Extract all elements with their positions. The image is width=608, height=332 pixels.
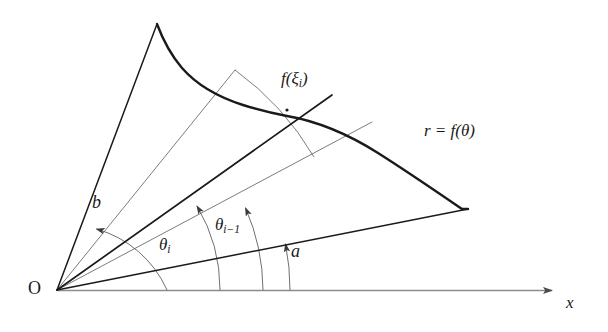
diagram-canvas bbox=[0, 0, 608, 332]
ray-theta-i-minus-1 bbox=[57, 122, 372, 290]
curve-r-equals-f-theta bbox=[157, 24, 468, 209]
angle-arc-theta-i-minus-1 bbox=[246, 208, 264, 290]
point-f-xi-i bbox=[285, 108, 288, 111]
sample-point-prefix: f(ξ bbox=[281, 69, 299, 88]
sample-point-label: f(ξi) bbox=[281, 70, 308, 90]
sample-point-suffix: ) bbox=[302, 69, 308, 88]
angle-arcs bbox=[97, 206, 291, 290]
theta-i-minus-1-label: θi−1 bbox=[215, 216, 240, 236]
angle-b-label: b bbox=[92, 193, 101, 211]
curve-equation-lhs: r = f(θ) bbox=[424, 121, 475, 140]
angle-arc-a bbox=[286, 244, 291, 290]
polar-sector-diagram: O x a b θi θi−1 f(ξi) r = f(θ) bbox=[0, 0, 608, 332]
ray-theta-i bbox=[57, 70, 235, 290]
curve-equation-label: r = f(θ) bbox=[424, 122, 475, 139]
theta-i-subscript: i bbox=[167, 243, 170, 256]
polar-curve bbox=[157, 24, 468, 209]
bounding-rays bbox=[57, 24, 468, 290]
angle-a-label: a bbox=[291, 242, 300, 260]
sample-point-marker bbox=[285, 108, 288, 111]
origin-label: O bbox=[28, 279, 41, 297]
x-axis-label: x bbox=[566, 294, 574, 311]
ray-theta-equals-b bbox=[57, 24, 157, 290]
theta-i-label: θi bbox=[159, 236, 171, 256]
theta-i-minus-1-subscript: i−1 bbox=[223, 223, 240, 236]
